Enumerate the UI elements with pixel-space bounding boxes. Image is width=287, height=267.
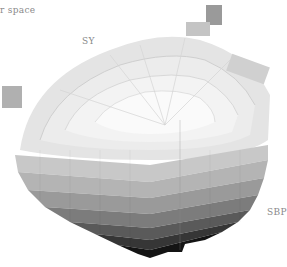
color-solid-diagram: [0, 0, 287, 267]
color-solid-top: [2, 5, 270, 160]
